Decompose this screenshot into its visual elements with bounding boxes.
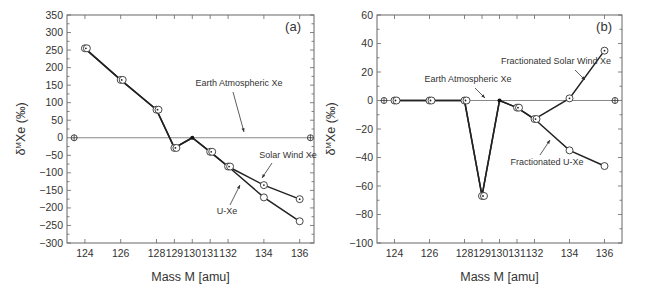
solar-wind-series-line bbox=[395, 51, 605, 196]
y-tick-label: 20 bbox=[361, 66, 373, 78]
data-marker bbox=[393, 97, 400, 104]
y-tick-label: −100 bbox=[349, 237, 373, 249]
y-tick-label: −40 bbox=[355, 151, 373, 163]
x-axis-title: Mass M [amu] bbox=[151, 270, 230, 284]
x-tick-label: 134 bbox=[561, 247, 579, 259]
y-tick-label: 350 bbox=[45, 9, 63, 21]
data-marker bbox=[516, 104, 523, 111]
x-tick-label: 124 bbox=[386, 247, 404, 259]
earth-atmospheric-label: Earth Atmospheric Xe bbox=[424, 74, 511, 84]
uxe-series-line bbox=[395, 101, 605, 196]
y-axis-title: δMXe (‰) bbox=[324, 102, 338, 155]
x-axis-title: Mass M [amu] bbox=[460, 270, 539, 284]
y-tick-label: −50 bbox=[45, 149, 63, 161]
y-tick-label: 250 bbox=[45, 44, 63, 56]
x-tick-label: 124 bbox=[76, 247, 94, 259]
chart-panel-a: 350300250200150100500−50−100−150−200−250… bbox=[14, 9, 317, 285]
chart-panel-b: 6040200−20−40−60−80−10012412612812913013… bbox=[324, 9, 622, 285]
earth-atmospheric-label: Earth Atmospheric Xe bbox=[195, 78, 282, 88]
solar-wind-series-line bbox=[85, 48, 300, 199]
x-tick-label: 126 bbox=[421, 247, 439, 259]
arrowhead-icon bbox=[547, 140, 550, 144]
uxe-series-line bbox=[85, 48, 300, 221]
y-tick-label: −300 bbox=[39, 237, 63, 249]
y-tick-label: −60 bbox=[355, 180, 373, 192]
x-tick-label: 132 bbox=[219, 247, 237, 259]
y-tick-label: 40 bbox=[361, 37, 373, 49]
y-tick-label: −250 bbox=[39, 219, 63, 231]
solar-wind-label: Solar Wind Xe bbox=[259, 150, 317, 160]
x-tick-label: 132 bbox=[526, 247, 544, 259]
arrowhead-icon bbox=[262, 174, 265, 178]
uxe-marker bbox=[260, 194, 267, 201]
y-axis-title: δMXe (‰) bbox=[14, 102, 28, 155]
uxe-label: U-Xe bbox=[217, 206, 238, 216]
reference-point bbox=[190, 136, 194, 140]
y-tick-label: −20 bbox=[355, 123, 373, 135]
panel-label: (a) bbox=[285, 19, 301, 34]
y-tick-label: −200 bbox=[39, 201, 63, 213]
reference-point bbox=[498, 99, 502, 103]
y-tick-label: 0 bbox=[367, 94, 373, 106]
data-marker bbox=[155, 106, 162, 113]
y-tick-label: 60 bbox=[361, 9, 373, 21]
data-marker bbox=[463, 97, 470, 104]
plot-frame bbox=[67, 15, 314, 243]
plot-frame bbox=[377, 15, 622, 243]
x-tick-label: 131 bbox=[508, 247, 526, 259]
solar-wind-label: Fractionated Solar Wind Xe bbox=[501, 56, 611, 66]
data-marker bbox=[83, 45, 90, 52]
data-marker bbox=[173, 144, 180, 151]
data-marker bbox=[428, 97, 435, 104]
uxe-label: Fractionated U-Xe bbox=[510, 157, 583, 167]
data-marker bbox=[209, 148, 216, 155]
uxe-marker bbox=[566, 147, 573, 154]
y-tick-label: 150 bbox=[45, 79, 63, 91]
y-tick-label: 300 bbox=[45, 26, 63, 38]
x-tick-label: 134 bbox=[255, 247, 273, 259]
x-tick-label: 129 bbox=[473, 247, 491, 259]
y-tick-label: 0 bbox=[57, 131, 63, 143]
data-marker bbox=[227, 163, 234, 170]
x-tick-label: 136 bbox=[291, 247, 309, 259]
panel-label: (b) bbox=[596, 19, 612, 34]
x-tick-label: 126 bbox=[112, 247, 130, 259]
y-tick-label: −100 bbox=[39, 166, 63, 178]
annotation-arrow bbox=[233, 92, 244, 132]
figure: 350300250200150100500−50−100−150−200−250… bbox=[0, 0, 648, 295]
y-tick-label: 100 bbox=[45, 96, 63, 108]
arrowhead-icon bbox=[242, 128, 245, 132]
data-marker bbox=[481, 192, 488, 199]
uxe-marker bbox=[601, 163, 608, 170]
y-tick-label: −150 bbox=[39, 184, 63, 196]
x-tick-label: 129 bbox=[166, 247, 184, 259]
data-marker bbox=[119, 76, 126, 83]
uxe-marker bbox=[296, 218, 303, 225]
data-marker bbox=[533, 116, 540, 123]
y-tick-label: 50 bbox=[51, 114, 63, 126]
x-tick-label: 130 bbox=[491, 247, 509, 259]
y-tick-label: 200 bbox=[45, 61, 63, 73]
x-tick-label: 128 bbox=[456, 247, 474, 259]
x-tick-label: 131 bbox=[201, 247, 219, 259]
x-tick-label: 130 bbox=[184, 247, 202, 259]
x-tick-label: 128 bbox=[148, 247, 166, 259]
y-tick-label: −80 bbox=[355, 208, 373, 220]
x-tick-label: 136 bbox=[596, 247, 614, 259]
